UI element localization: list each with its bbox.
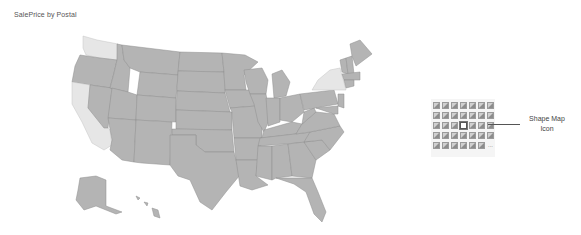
state-new-mexico[interactable] <box>134 120 172 165</box>
paginated-report-icon[interactable] <box>451 142 458 149</box>
more-visuals-icon[interactable]: ... <box>487 142 494 149</box>
line-and-column-chart-icon[interactable] <box>442 112 449 119</box>
smart-narrative-icon[interactable] <box>442 142 449 149</box>
callout-line-2: Icon <box>520 124 574 134</box>
decomposition-tree-icon[interactable] <box>487 132 494 139</box>
clustered-column-chart-icon[interactable] <box>460 102 467 109</box>
power-automate-icon[interactable] <box>469 142 476 149</box>
shape-map-callout: Shape Map Icon <box>520 114 574 134</box>
state-utah[interactable] <box>108 88 137 120</box>
state-nebraska[interactable] <box>176 91 230 112</box>
state-south-dakota[interactable] <box>177 71 225 93</box>
treemap-icon[interactable] <box>442 122 449 129</box>
stacked-area-chart-icon[interactable] <box>433 112 440 119</box>
state-connecticut[interactable] <box>344 80 354 88</box>
shape-map-icon[interactable] <box>460 122 467 129</box>
state-indiana[interactable] <box>266 98 280 126</box>
stacked-bar-chart-icon[interactable] <box>433 102 440 109</box>
table-icon[interactable] <box>442 132 449 139</box>
state-hawaii[interactable] <box>136 196 160 218</box>
stacked-column-chart-icon[interactable] <box>442 102 449 109</box>
state-michigan[interactable] <box>272 70 290 98</box>
matrix-icon[interactable] <box>451 132 458 139</box>
r-script-icon[interactable] <box>460 132 467 139</box>
map-icon[interactable] <box>451 122 458 129</box>
qna-icon[interactable] <box>433 142 440 149</box>
state-alaska[interactable] <box>76 176 122 214</box>
state-ohio[interactable] <box>280 94 304 122</box>
state-arizona[interactable] <box>108 118 136 162</box>
arcgis-map-icon[interactable] <box>478 142 485 149</box>
state-montana[interactable] <box>122 45 180 75</box>
python-visual-icon[interactable] <box>469 132 476 139</box>
state-kansas[interactable] <box>176 110 232 130</box>
area-chart-icon[interactable] <box>487 102 494 109</box>
state-wyoming[interactable] <box>137 72 178 98</box>
waterfall-chart-icon[interactable] <box>460 112 467 119</box>
ribbon-chart-icon[interactable] <box>451 112 458 119</box>
state-new-jersey[interactable] <box>338 94 344 108</box>
scatter-chart-icon[interactable] <box>478 112 485 119</box>
multi-row-card-icon[interactable] <box>433 132 440 139</box>
state-massachusetts[interactable] <box>342 72 360 80</box>
callout-pointer-line <box>488 124 520 125</box>
callout-line-1: Shape Map <box>520 114 574 124</box>
donut-chart-icon[interactable] <box>433 122 440 129</box>
line-chart-icon[interactable] <box>478 102 485 109</box>
state-colorado[interactable] <box>136 95 176 122</box>
clustered-bar-chart-icon[interactable] <box>451 102 458 109</box>
state-mississippi[interactable] <box>256 146 272 180</box>
filled-map-icon[interactable] <box>469 122 476 129</box>
state-florida[interactable] <box>276 178 326 222</box>
gauge-icon[interactable] <box>478 122 485 129</box>
100-stacked-bar-chart-icon[interactable] <box>469 102 476 109</box>
state-new-york[interactable] <box>312 68 346 90</box>
pie-chart-icon[interactable] <box>487 112 494 119</box>
funnel-chart-icon[interactable] <box>469 112 476 119</box>
visualizations-pane: ... <box>431 99 495 157</box>
state-north-dakota[interactable] <box>178 52 224 72</box>
state-maine[interactable] <box>350 40 372 66</box>
key-influencers-icon[interactable] <box>478 132 485 139</box>
power-apps-icon[interactable] <box>460 142 467 149</box>
